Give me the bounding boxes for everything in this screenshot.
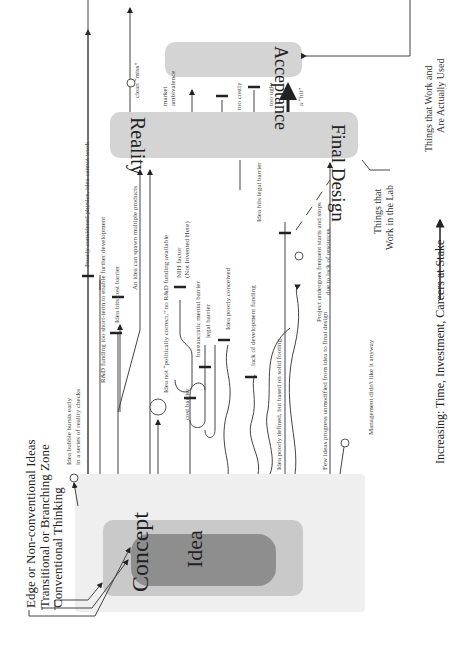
annotation: Project undergoes frequent starts and st…: [316, 202, 323, 322]
annotation: Idea poorly defined, but based on solid …: [276, 339, 283, 470]
annotation: (Not Invented Here): [184, 221, 191, 278]
annotation: Idea hits cost barrier: [114, 266, 121, 323]
annotation: market: [162, 87, 169, 106]
annotation: due to lack of resources: [325, 229, 332, 295]
legend-conventional: Conventional Thinking: [51, 487, 64, 608]
final-design-label: Final Design: [329, 124, 348, 222]
reality-label: Reality: [128, 117, 148, 175]
annotation: Things that Work and: [424, 66, 434, 153]
annotation: Work in the Lab: [385, 185, 395, 250]
annotation: in a series of reality checks: [75, 389, 82, 465]
diagram-lines: [0, 0, 466, 645]
annotation: clean “miss”: [134, 62, 141, 98]
annotation: An idea can spawn multiple products: [132, 186, 139, 290]
annotation: R&D funding too short-term to enable fur…: [100, 217, 107, 383]
annotation: Idea hits legal barrier: [256, 162, 263, 222]
annotation: NIH factor: [176, 247, 183, 278]
annotation: Idea bubble bursts early: [66, 398, 73, 465]
annotation: Are Actually Used: [436, 59, 446, 133]
annotation: too ugly: [268, 83, 275, 106]
annotation: Poorly considered physics, idea cannot w…: [84, 142, 91, 267]
annotation: cost barrier: [184, 388, 191, 420]
annotation: ambivalence: [170, 71, 177, 106]
annotation: Management didn't like it anyway: [368, 340, 375, 435]
annotation: bureaucratic mental barrier: [195, 281, 202, 357]
annotation: legal barrier: [205, 304, 212, 338]
annotation: Few ideas progress unmodified from idea …: [322, 312, 329, 470]
axis-label: Increasing: Time, Investment, Careers at…: [434, 240, 446, 464]
idea-label: Idea: [184, 530, 206, 568]
annotation: lack of development funding: [250, 285, 257, 366]
legend-edge: Edge or Non-conventional Ideas: [24, 439, 37, 608]
annotation: Things that: [373, 189, 383, 234]
annotation: a “hit”: [298, 88, 305, 106]
annotation: too costly: [236, 83, 243, 110]
annotation: Idea poorly conceived: [225, 268, 232, 330]
annotation: Idea not “politically correct,” no R&D f…: [163, 235, 170, 393]
concept-label: Concept: [128, 512, 152, 592]
